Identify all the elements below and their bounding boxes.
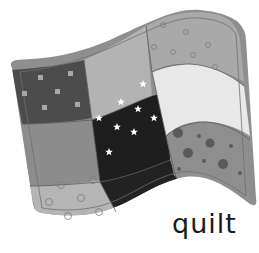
patch-middle-left: [22, 118, 100, 186]
caption-label: quilt: [172, 210, 237, 237]
